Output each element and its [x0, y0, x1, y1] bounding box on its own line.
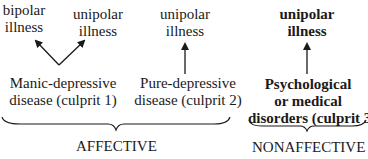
psychological-medical-disorders-label: Psychologicalor medicaldisorders (culpri… — [248, 76, 368, 127]
nonaffective-group-label: NONAFFECTIVE — [252, 139, 364, 156]
unipolar-illness-label-1: unipolarillness — [68, 6, 128, 40]
pure-depressive-disease-label: Pure-depressivedisease (culprit 2) — [128, 75, 248, 109]
unipolar-illness-label-3: unipolarillness — [272, 6, 342, 40]
arrow-to-bipolar — [36, 41, 59, 65]
bipolar-illness-label: bipolarillness — [2, 2, 46, 36]
affective-group-label: AFFECTIVE — [76, 138, 156, 155]
manic-depressive-disease-label: Manic-depressivedisease (culprit 1) — [4, 75, 122, 109]
unipolar-illness-label-2: unipolarillness — [155, 6, 215, 40]
arrow-to-unipolar-1 — [59, 41, 84, 65]
affective-brace — [2, 117, 230, 130]
